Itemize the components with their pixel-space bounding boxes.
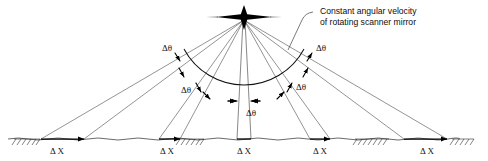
- tick-right-inner-a: [277, 92, 284, 99]
- ray-pair-2: [159, 20, 244, 139]
- ray-right-outer-b: [244, 20, 447, 139]
- label-dx-1: Δ X: [50, 146, 65, 156]
- constant-angular-velocity-arc: [184, 49, 304, 85]
- scanner-mirror-apex: [206, 5, 282, 30]
- four-point-star-icon: [216, 5, 272, 30]
- star-glint-right: [270, 16, 282, 17]
- tick-left-inner-a: [196, 83, 201, 92]
- label-dx-3: Δ X: [237, 146, 252, 156]
- ray-pair-1: [41, 20, 244, 139]
- label-dtheta-right-outer: Δθ: [316, 43, 326, 53]
- ray-center-b: [245, 20, 251, 139]
- ray-right-inner-b: [244, 20, 330, 139]
- ray-right-outer-a: [244, 20, 404, 139]
- label-dtheta-left-inner: Δθ: [181, 85, 191, 95]
- hatch-patch-4: [450, 139, 474, 145]
- ray-bundle: [41, 20, 447, 139]
- ray-right-inner-a: [244, 20, 310, 139]
- diagram-canvas: Constant angular velocity of rotating sc…: [0, 0, 488, 161]
- ray-pair-5: [244, 20, 447, 139]
- callout-line-2: of rotating scanner mirror: [320, 17, 416, 27]
- label-dtheta-right-inner: Δθ: [296, 82, 306, 92]
- callout-leader-line: [288, 12, 313, 50]
- ray-left-inner-b: [180, 20, 244, 139]
- label-dx-2: Δ X: [160, 146, 175, 156]
- star-glint-left: [206, 16, 218, 17]
- label-dtheta-left-outer: Δθ: [162, 43, 172, 53]
- tick-left-inner-b: [203, 92, 210, 99]
- ray-pair-3: [237, 20, 251, 139]
- callout-line-1: Constant angular velocity: [320, 6, 417, 16]
- tick-right-inner-b: [287, 83, 292, 92]
- tick-right-outer-b: [307, 53, 312, 61]
- label-dx-4: Δ X: [313, 146, 328, 156]
- label-dtheta-center: Δθ: [246, 108, 256, 118]
- ray-center-a: [237, 20, 243, 139]
- ray-pair-4: [244, 20, 330, 139]
- ray-left-inner-a: [159, 20, 244, 139]
- ray-left-outer-b: [84, 20, 244, 139]
- tick-right-outer-a: [303, 68, 308, 77]
- delta-theta-tick-marks: [175, 53, 312, 101]
- scanner-geometry-figure: Constant angular velocity of rotating sc…: [0, 0, 488, 161]
- label-dx-5: Δ X: [420, 146, 435, 156]
- ray-left-outer-a: [41, 20, 244, 139]
- tick-left-outer-b: [179, 68, 184, 77]
